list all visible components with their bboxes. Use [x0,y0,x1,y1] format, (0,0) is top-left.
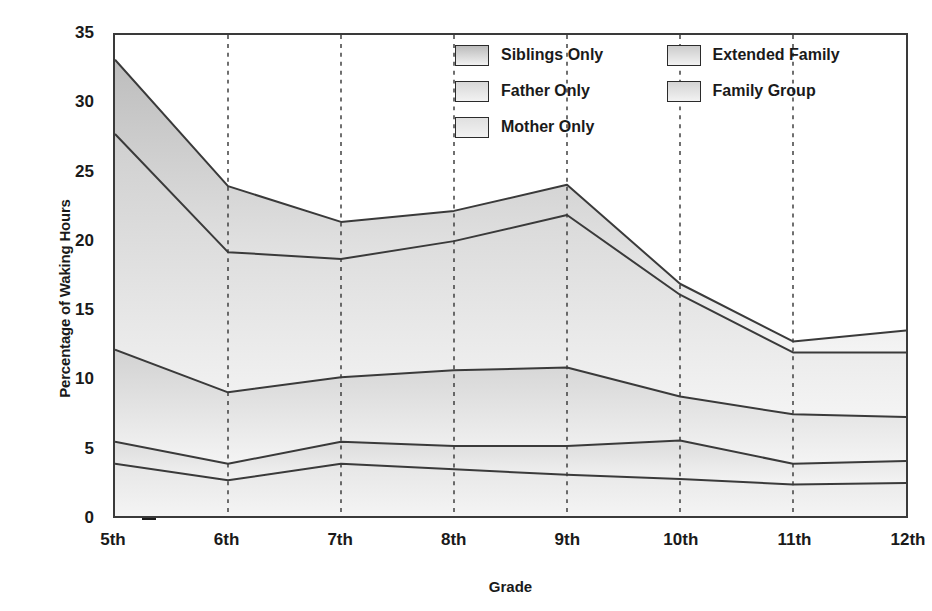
legend-swatch [667,45,701,66]
legend-label: Family Group [713,82,816,100]
legend-item[interactable]: Extended Family [667,40,885,70]
legend-label: Mother Only [501,118,594,136]
chart-legend: Siblings OnlyFather OnlyMother Only Exte… [455,40,885,142]
x-tick-label: 10th [663,530,698,550]
y-tick-label: 15 [52,300,94,320]
y-tick-label: 10 [52,369,94,389]
legend-item[interactable]: Father Only [455,76,649,106]
legend-swatch [455,45,489,66]
y-tick-label: 20 [52,231,94,251]
legend-swatch [667,81,701,102]
x-axis-title: Grade [113,578,908,595]
x-tick-label: 9th [555,530,581,550]
legend-swatch [455,117,489,138]
legend-column-left: Siblings OnlyFather OnlyMother Only [455,40,649,142]
y-tick-label: 0 [52,508,94,528]
x-tick-label: 5th [100,530,126,550]
legend-label: Father Only [501,82,590,100]
y-tick-label: 35 [52,23,94,43]
y-tick-label: 5 [52,439,94,459]
legend-column-right: Extended FamilyFamily Group [667,40,885,142]
y-tick-label: 25 [52,162,94,182]
x-tick-label: 8th [441,530,467,550]
x-tick-label: 12th [891,530,926,550]
legend-swatch [455,81,489,102]
x-tick-label: 6th [214,530,240,550]
legend-item[interactable]: Siblings Only [455,40,649,70]
x-tick-label: 11th [777,530,811,550]
x-tick-label: 7th [327,530,353,550]
y-tick-label: 30 [52,92,94,112]
legend-label: Extended Family [713,46,840,64]
legend-label: Siblings Only [501,46,603,64]
y-tick-mark [142,518,156,520]
x-axis-tick-labels: 5th6th7th8th9th10th11th12th [0,530,932,560]
chart-figure: Percentage of Waking Hours 3530252015105… [0,0,932,611]
legend-item[interactable]: Family Group [667,76,885,106]
legend-item[interactable]: Mother Only [455,112,649,142]
y-axis-tick-labels: 35302520151050 [46,0,94,611]
